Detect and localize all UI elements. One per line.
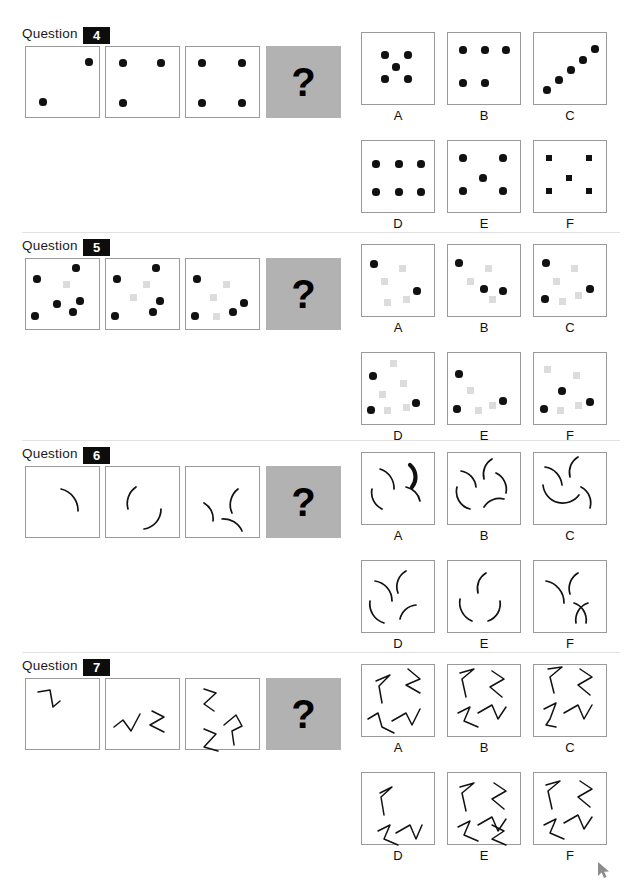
arc-0 bbox=[127, 487, 136, 509]
option-box-A[interactable] bbox=[361, 664, 435, 737]
option-F[interactable]: F bbox=[533, 560, 607, 655]
arc-0 bbox=[545, 467, 562, 485]
option-E[interactable]: E bbox=[447, 772, 521, 867]
option-F[interactable]: F bbox=[533, 140, 607, 235]
option-B[interactable]: B bbox=[447, 664, 521, 759]
option-box-F[interactable] bbox=[533, 352, 607, 425]
dot-0 bbox=[119, 59, 126, 66]
option-box-C[interactable] bbox=[533, 452, 607, 525]
dot-0 bbox=[558, 387, 565, 394]
option-box-F[interactable] bbox=[533, 772, 607, 845]
option-box-B[interactable] bbox=[447, 32, 521, 105]
option-C[interactable]: C bbox=[533, 452, 607, 547]
option-label-E: E bbox=[447, 636, 521, 651]
option-content bbox=[362, 141, 434, 212]
dot-3 bbox=[381, 75, 388, 82]
option-box-C[interactable] bbox=[533, 664, 607, 737]
option-content bbox=[534, 353, 606, 424]
panel-content bbox=[186, 467, 259, 537]
option-strokes bbox=[448, 665, 520, 736]
dot-1 bbox=[152, 264, 159, 271]
option-strokes bbox=[534, 561, 606, 632]
faint-square-0 bbox=[143, 281, 150, 288]
option-B[interactable]: B bbox=[447, 32, 521, 127]
option-D[interactable]: D bbox=[361, 352, 435, 447]
sequence-panel-4: ? bbox=[266, 258, 341, 330]
faint-square-4 bbox=[403, 404, 410, 411]
arc-0 bbox=[546, 581, 564, 603]
option-box-A[interactable] bbox=[361, 32, 435, 105]
dot-1 bbox=[453, 405, 460, 412]
dot-3 bbox=[238, 99, 245, 106]
option-C[interactable]: C bbox=[533, 244, 607, 339]
option-label-A: A bbox=[361, 740, 435, 755]
dot-0 bbox=[455, 370, 462, 377]
dot-0 bbox=[193, 275, 200, 282]
option-box-E[interactable] bbox=[447, 140, 521, 213]
option-box-D[interactable] bbox=[361, 140, 435, 213]
option-D[interactable]: D bbox=[361, 772, 435, 867]
thick-arc-0 bbox=[410, 465, 415, 487]
option-box-D[interactable] bbox=[361, 352, 435, 425]
dot-3 bbox=[156, 297, 163, 304]
option-D[interactable]: D bbox=[361, 560, 435, 655]
option-box-B[interactable] bbox=[447, 244, 521, 317]
dot-3 bbox=[191, 312, 198, 319]
option-strokes bbox=[448, 773, 520, 844]
option-E[interactable]: E bbox=[447, 352, 521, 447]
dot-2 bbox=[240, 299, 247, 306]
zigzag-2 bbox=[544, 819, 564, 839]
option-E[interactable]: E bbox=[447, 560, 521, 655]
option-B[interactable]: B bbox=[447, 244, 521, 339]
dot-4 bbox=[111, 312, 118, 319]
faint-square-0 bbox=[467, 387, 474, 394]
option-C[interactable]: C bbox=[533, 32, 607, 127]
option-box-B[interactable] bbox=[447, 664, 521, 737]
panel-content bbox=[186, 47, 259, 117]
option-A[interactable]: A bbox=[361, 452, 435, 547]
option-box-C[interactable] bbox=[533, 32, 607, 105]
option-A[interactable]: A bbox=[361, 664, 435, 759]
section-divider bbox=[22, 440, 620, 441]
section-divider bbox=[22, 652, 620, 653]
dot-4 bbox=[404, 75, 411, 82]
option-box-E[interactable] bbox=[447, 772, 521, 845]
arc-3 bbox=[400, 605, 416, 619]
zigzag-0 bbox=[38, 690, 60, 707]
sequence-panel-1 bbox=[25, 678, 100, 750]
option-box-B[interactable] bbox=[447, 452, 521, 525]
option-E[interactable]: E bbox=[447, 140, 521, 235]
panel-content bbox=[186, 679, 259, 749]
option-label-E: E bbox=[447, 216, 521, 231]
option-C[interactable]: C bbox=[533, 664, 607, 759]
option-A[interactable]: A bbox=[361, 244, 435, 339]
zigzag-0 bbox=[460, 669, 474, 697]
option-box-F[interactable] bbox=[533, 140, 607, 213]
dot-3 bbox=[459, 187, 466, 194]
option-box-D[interactable] bbox=[361, 560, 435, 633]
option-box-A[interactable] bbox=[361, 452, 435, 525]
option-content bbox=[448, 141, 520, 212]
zigzag-1 bbox=[224, 715, 242, 745]
dot-2 bbox=[586, 398, 593, 405]
option-A[interactable]: A bbox=[361, 32, 435, 127]
option-box-D[interactable] bbox=[361, 772, 435, 845]
option-content bbox=[448, 453, 520, 524]
panel-content bbox=[26, 679, 99, 749]
faint-square-1 bbox=[553, 278, 560, 285]
option-box-A[interactable] bbox=[361, 244, 435, 317]
option-box-E[interactable] bbox=[447, 352, 521, 425]
option-F[interactable]: F bbox=[533, 352, 607, 447]
faint-square-0 bbox=[544, 366, 551, 373]
faint-square-3 bbox=[403, 296, 410, 303]
option-F[interactable]: F bbox=[533, 772, 607, 867]
option-D[interactable]: D bbox=[361, 140, 435, 235]
option-box-F[interactable] bbox=[533, 560, 607, 633]
zigzag-0 bbox=[204, 689, 216, 711]
sequence-panel-2 bbox=[105, 466, 180, 538]
dot-4 bbox=[481, 79, 488, 86]
dot-2 bbox=[567, 66, 574, 73]
option-box-C[interactable] bbox=[533, 244, 607, 317]
option-box-E[interactable] bbox=[447, 560, 521, 633]
option-B[interactable]: B bbox=[447, 452, 521, 547]
